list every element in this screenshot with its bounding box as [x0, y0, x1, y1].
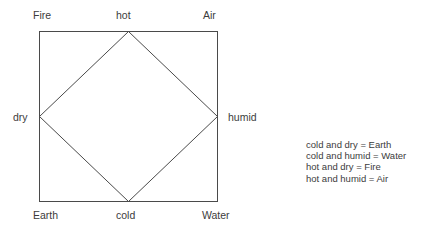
legend: cold and dry = Earth cold and humid = Wa…	[306, 139, 428, 184]
corner-label-water: Water	[202, 209, 230, 221]
diagram-canvas: Fire Air Earth Water hot humid cold dry …	[0, 0, 431, 239]
legend-line: cold and dry = Earth	[306, 139, 428, 150]
vertex-label-cold: cold	[116, 209, 135, 221]
outer-square	[40, 32, 218, 202]
corner-label-fire: Fire	[33, 9, 51, 21]
vertex-label-humid: humid	[228, 111, 257, 123]
inscribed-diamond	[40, 32, 218, 202]
elements-figure: Fire Air Earth Water hot humid cold dry	[0, 0, 270, 239]
legend-line: hot and humid = Air	[306, 173, 428, 184]
legend-line: hot and dry = Fire	[306, 161, 428, 172]
vertex-label-hot: hot	[116, 9, 131, 21]
legend-line: cold and humid = Water	[306, 150, 428, 161]
vertex-label-dry: dry	[13, 111, 28, 123]
corner-label-air: Air	[203, 9, 216, 21]
corner-label-earth: Earth	[33, 209, 58, 221]
